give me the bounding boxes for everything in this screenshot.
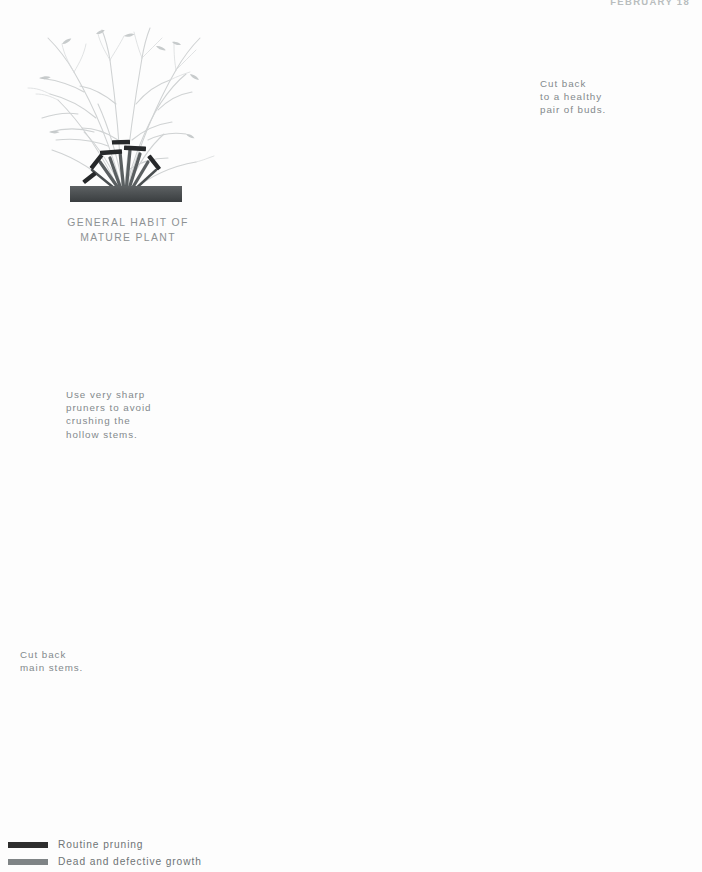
habit-plant-label: GENERAL HABIT OF MATURE PLANT — [38, 216, 218, 245]
legend-label-dead-growth: Dead and defective growth — [58, 856, 202, 867]
legend-item-routine-pruning: Routine pruning — [8, 836, 202, 853]
legend-swatch-routine-pruning — [8, 842, 48, 848]
legend-item-dead-growth: Dead and defective growth — [8, 853, 202, 870]
legend: Routine pruning Dead and defective growt… — [8, 836, 202, 870]
legend-swatch-dead-growth — [8, 859, 48, 865]
legend-label-routine-pruning: Routine pruning — [58, 839, 143, 850]
caption-cut-back-buds: Cut back to a healthy pair of buds. — [540, 77, 606, 117]
caption-sharp-pruners: Use very sharp pruners to avoid crushing… — [66, 388, 151, 441]
habit-plant-soil — [70, 186, 182, 202]
pruning-guide-page: FEBRUARY 18 — [0, 0, 702, 872]
habit-plant-illustration — [28, 28, 214, 202]
caption-cut-back-main-stems: Cut back main stems. — [20, 648, 83, 674]
